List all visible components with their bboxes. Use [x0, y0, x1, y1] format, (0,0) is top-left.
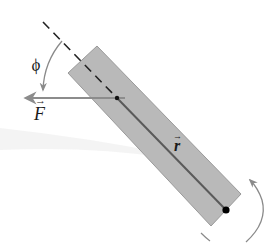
angle-label: ϕ — [29, 55, 42, 75]
rotation-arc-tail — [201, 233, 210, 241]
force-application-point — [115, 96, 119, 100]
radius-vector-line — [117, 98, 226, 210]
torque-diagram: ϕ → F → r — [0, 0, 277, 243]
pivot-point — [222, 206, 229, 213]
radius-label: r — [174, 137, 181, 154]
rotation-arrow — [246, 180, 263, 242]
angle-arc — [43, 41, 62, 90]
force-label: F — [33, 104, 46, 124]
